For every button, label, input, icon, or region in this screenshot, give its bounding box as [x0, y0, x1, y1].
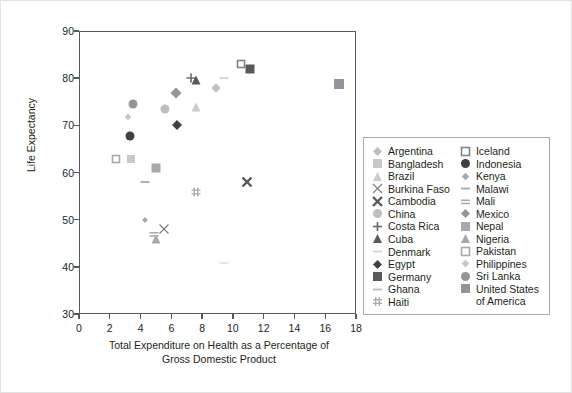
dash-marker-icon	[372, 246, 383, 257]
legend-label: Egypt	[388, 258, 415, 270]
legend-item-nigeria: Nigeria	[460, 233, 539, 246]
legend-item-mexico: Mexico	[460, 208, 539, 221]
y-tick-label: 90	[48, 25, 74, 37]
legend-label: China	[388, 208, 415, 220]
legend-label: Denmark	[388, 246, 431, 258]
x-tick-label: 4	[138, 322, 144, 334]
legend: ArgentinaBangladeshBrazilBurkina FasoCam…	[363, 137, 550, 315]
legend-label: Cambodia	[388, 195, 436, 207]
x-axis-label-line2: Gross Domestic Product	[59, 352, 379, 366]
legend-label: Haiti	[388, 296, 409, 308]
x-tick-label: 14	[289, 322, 301, 334]
legend-item-germany: Germany	[372, 270, 450, 283]
legend-item-burkina-faso: Burkina Faso	[372, 183, 450, 196]
y-tick-label: 70	[48, 119, 74, 131]
figure-container: Life Expectancy 30405060708090 024681012…	[0, 0, 572, 393]
plot-frame	[79, 31, 356, 314]
dash-marker-icon	[372, 284, 383, 295]
legend-label-continuation: of America	[460, 295, 539, 308]
square-marker-icon	[372, 271, 383, 282]
x-tick-label: 10	[227, 322, 239, 334]
legend-label: Bangladesh	[388, 158, 443, 170]
legend-item-cambodia: Cambodia	[372, 195, 450, 208]
legend-item-iceland: Iceland	[460, 145, 539, 158]
y-tick-label: 30	[48, 308, 74, 320]
square-marker-icon	[460, 283, 471, 294]
x-tick-mark	[232, 314, 233, 319]
legend-label: Iceland	[476, 145, 510, 157]
x-tick-mark	[263, 314, 264, 319]
legend-label: Nigeria	[476, 233, 509, 245]
triangle-marker-icon	[372, 233, 383, 244]
x-axis-label: Total Expenditure on Health as a Percent…	[59, 338, 379, 366]
legend-column-right: IcelandIndonesiaKenyaMalawiMaliMexicoNep…	[460, 145, 539, 308]
y-tick-label: 40	[48, 261, 74, 273]
legend-label: Sri Lanka	[476, 270, 520, 282]
dash-marker-icon	[460, 183, 471, 194]
x-tick-mark	[201, 314, 202, 319]
x-tick-label: 18	[350, 322, 362, 334]
y-tick-label: 60	[48, 167, 74, 179]
x-tick-mark	[325, 314, 326, 319]
legend-item-argentina: Argentina	[372, 145, 450, 158]
legend-label: Costa Rica	[388, 220, 439, 232]
circle-marker-icon	[460, 158, 471, 169]
legend-item-ghana: Ghana	[372, 283, 450, 296]
diamond-sm-marker-icon	[460, 258, 471, 269]
legend-label: United States	[476, 283, 539, 295]
y-tick-label: 80	[48, 72, 74, 84]
triangle-marker-icon	[460, 233, 471, 244]
triangle-marker-icon	[372, 171, 383, 182]
x-bold-marker-icon	[372, 196, 383, 207]
legend-label: Ghana	[388, 283, 420, 295]
legend-label: Nepal	[476, 220, 503, 232]
legend-item-pakistan: Pakistan	[460, 245, 539, 258]
double-dash-marker-icon	[460, 196, 471, 207]
diamond-sm-marker-icon	[460, 171, 471, 182]
legend-label: Mexico	[476, 208, 509, 220]
legend-label: Brazil	[388, 170, 414, 182]
legend-item-egypt: Egypt	[372, 258, 450, 271]
x-tick-mark	[78, 314, 79, 319]
diamond-marker-icon	[372, 259, 383, 270]
legend-label: Mali	[476, 195, 495, 207]
legend-column-left: ArgentinaBangladeshBrazilBurkina FasoCam…	[372, 145, 450, 308]
legend-label: Kenya	[476, 170, 506, 182]
x-tick-mark	[140, 314, 141, 319]
x-tick-label: 8	[199, 322, 205, 334]
legend-item-china: China	[372, 208, 450, 221]
x-tick-label: 6	[168, 322, 174, 334]
x-tick-label: 0	[76, 322, 82, 334]
legend-item-united-states: United States	[460, 283, 539, 296]
legend-item-brazil: Brazil	[372, 170, 450, 183]
open-square-marker-icon	[460, 246, 471, 257]
legend-item-costa-rica: Costa Rica	[372, 220, 450, 233]
legend-item-kenya: Kenya	[460, 170, 539, 183]
square-marker-icon	[372, 158, 383, 169]
circle-marker-icon	[372, 208, 383, 219]
legend-item-nepal: Nepal	[460, 220, 539, 233]
diamond-marker-icon	[372, 146, 383, 157]
x-tick-mark	[171, 314, 172, 319]
y-axis-label: Life Expectancy	[25, 75, 37, 195]
legend-item-philippines: Philippines	[460, 258, 539, 271]
legend-label: Germany	[388, 271, 431, 283]
legend-item-bangladesh: Bangladesh	[372, 158, 450, 171]
legend-item-malawi: Malawi	[460, 183, 539, 196]
diamond-marker-icon	[460, 208, 471, 219]
circle-marker-icon	[460, 271, 471, 282]
x-thin-marker-icon	[372, 183, 383, 194]
hash-marker-icon	[372, 296, 383, 307]
x-tick-label: 16	[319, 322, 331, 334]
legend-item-mali: Mali	[460, 195, 539, 208]
legend-label: Indonesia	[476, 158, 522, 170]
x-tick-mark	[355, 314, 356, 319]
open-square-marker-icon	[460, 146, 471, 157]
legend-item-denmark: Denmark	[372, 245, 450, 258]
square-marker-icon	[460, 221, 471, 232]
x-tick-mark	[109, 314, 110, 319]
legend-item-indonesia: Indonesia	[460, 158, 539, 171]
legend-label: Philippines	[476, 258, 527, 270]
legend-item-haiti: Haiti	[372, 295, 450, 308]
x-tick-mark	[294, 314, 295, 319]
